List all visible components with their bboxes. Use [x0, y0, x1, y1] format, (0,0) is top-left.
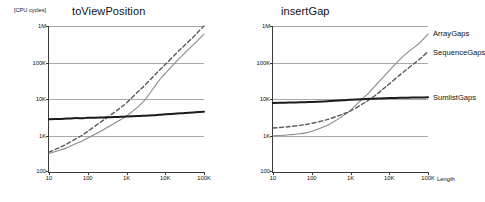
chart-panel-insert-gap: insertGap 1M 100K 10K 1K 100 [225, 0, 471, 202]
x-axis-caption: Length [437, 176, 455, 182]
series-line-sequencegaps-right [273, 52, 428, 129]
ytick-label-100-right: 100 [260, 169, 270, 175]
ytick-label-1m: 1M [38, 24, 46, 30]
xtick-label-10: 10 [46, 176, 52, 182]
ytick-label-1k: 1K [39, 134, 46, 140]
ytick-label-10k: 10K [36, 97, 46, 103]
xtick-label-100: 100 [83, 176, 93, 182]
plot-area-right: 1M 100K 10K 1K 100 10 100 1K [272, 26, 428, 173]
chart-panel-to-view-position: [CPU cycles] toViewPosition 1M 100K 10K … [0, 0, 230, 202]
ytick-label-1m-right: 1M [262, 24, 270, 30]
xtick-label-100k-right: 100K [421, 176, 435, 182]
xtick-label-10k: 10K [160, 176, 170, 182]
xtick-label-10-right: 10 [270, 176, 276, 182]
chart-title-left: toViewPosition [72, 5, 145, 17]
series-lines-right [273, 26, 428, 172]
ytick-label-100k: 100K [32, 61, 46, 67]
ytick-label-10k-right: 10K [260, 97, 270, 103]
legend-label-sequencegaps: SequenceGaps [433, 48, 485, 57]
xtick-label-10k-right: 10K [384, 176, 394, 182]
series-line-arraygaps-left [49, 34, 204, 153]
ytick-label-1k-right: 1K [263, 134, 270, 140]
xtick-label-100-right: 100 [307, 176, 317, 182]
legend-label-sumlistgaps: SumlistGaps [433, 93, 476, 102]
legend-label-arraygaps: ArrayGaps [433, 29, 469, 38]
ytick-label-100: 100 [36, 169, 46, 175]
xtick-label-1k-right: 1K [347, 176, 354, 182]
ytick-label-100k-right: 100K [256, 61, 270, 67]
series-line-sequencegaps-left [49, 26, 204, 152]
series-line-arraygaps-right [273, 34, 428, 136]
series-line-sumlistgaps-right [273, 97, 428, 103]
chart-title-right: insertGap [281, 5, 330, 17]
series-lines-left [49, 26, 204, 172]
y-axis-unit-label: [CPU cycles] [14, 7, 46, 13]
xtick-label-1k: 1K [123, 176, 130, 182]
plot-area-left: 1M 100K 10K 1K 100 10 100 [48, 26, 204, 173]
xtick-label-100k: 100K [197, 176, 211, 182]
